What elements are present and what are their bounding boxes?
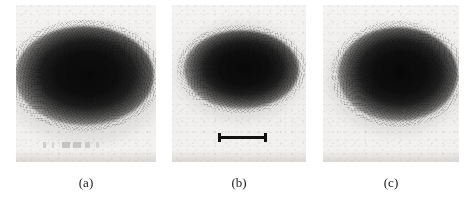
panel-c-dark-spot bbox=[338, 27, 458, 121]
panel-a-bottom-edge bbox=[16, 150, 156, 162]
panel-c-spot-grain bbox=[331, 21, 459, 126]
panel-b-spot-grain bbox=[177, 25, 306, 113]
scale-bar-cap-right bbox=[264, 133, 267, 142]
panel-a-faint-marks bbox=[40, 142, 112, 148]
panel-b-dark-spot bbox=[184, 30, 299, 109]
scale-bar bbox=[218, 133, 267, 142]
panel-a-spot-grain bbox=[16, 20, 156, 131]
scale-bar-cap-left bbox=[218, 133, 221, 142]
panel-c-bottom-edge bbox=[323, 150, 459, 162]
panel-a-dark-spot bbox=[16, 26, 154, 125]
figure-container: (a) (b) (c) bbox=[0, 0, 470, 202]
panel-c bbox=[323, 5, 459, 162]
caption-panel-c: (c) bbox=[323, 176, 459, 189]
caption-panel-b: (b) bbox=[172, 176, 306, 189]
scale-bar-rule bbox=[218, 136, 267, 139]
caption-panel-a: (a) bbox=[16, 176, 156, 189]
panel-b-bottom-edge bbox=[172, 150, 306, 162]
panel-a bbox=[16, 5, 156, 162]
